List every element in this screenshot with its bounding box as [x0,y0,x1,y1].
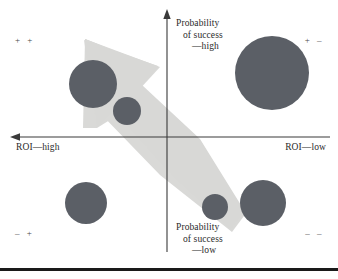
bubble [113,97,141,125]
probability-axis-arrowhead [163,9,170,19]
quadrant-mark-top-right: + – [305,35,324,45]
roi-low-label: ROI—low [285,142,326,152]
quadrant-mark-bottom-left: – + [15,228,34,238]
quadrant-mark-bottom-right: – – [305,228,324,238]
bubble [235,36,309,110]
probability-high-label: Probability of success —high [176,18,223,53]
bottom-divider [0,268,338,271]
bubble [240,180,286,226]
plot-area: Probability of success —high Probability… [0,0,338,265]
quadrant-mark-top-left: + + [15,35,35,45]
roi-high-label: ROI—high [16,142,60,152]
bubble [65,182,107,224]
probability-low-label: Probability of success —low [176,222,223,257]
diagram-canvas [0,0,338,265]
bubble [202,194,228,220]
quadrant-bubble-diagram: Probability of success —high Probability… [0,0,338,279]
bubble [69,60,117,108]
roi-axis-arrowhead [10,133,20,141]
